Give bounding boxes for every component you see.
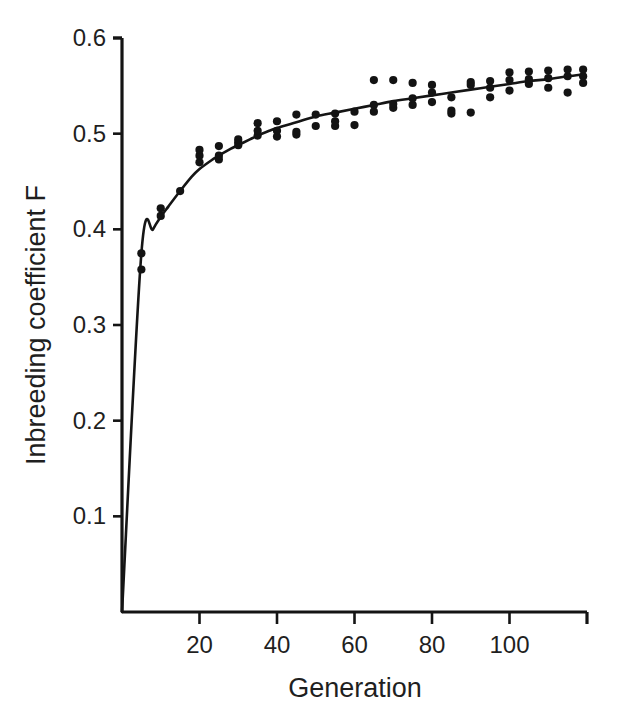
data-point	[447, 107, 455, 115]
inbreeding-coefficient-chart: 0.10.20.30.40.50.6 20406080100 Generatio…	[0, 0, 623, 713]
data-point	[273, 127, 281, 135]
data-point	[467, 109, 475, 117]
y-axis-tick-label: 0.5	[73, 120, 106, 147]
data-point	[157, 204, 165, 212]
data-point	[409, 79, 417, 87]
data-point	[525, 75, 533, 83]
data-point	[525, 67, 533, 75]
data-point	[409, 94, 417, 102]
data-point	[428, 88, 436, 96]
data-point	[234, 135, 242, 143]
data-point	[292, 110, 300, 118]
x-axis-tick-label: 100	[489, 631, 529, 658]
data-point	[195, 146, 203, 154]
data-point	[544, 84, 552, 92]
data-point	[292, 128, 300, 136]
data-point	[579, 65, 587, 73]
data-point	[137, 249, 145, 257]
x-axis-tick-label: 80	[419, 631, 446, 658]
data-point	[486, 93, 494, 101]
y-axis-tick-label: 0.3	[73, 311, 106, 338]
y-axis-tick-label: 0.6	[73, 24, 106, 51]
data-point	[467, 78, 475, 86]
y-axis-tick-label: 0.4	[73, 215, 106, 242]
data-point	[505, 87, 513, 95]
data-point	[428, 81, 436, 89]
x-axis-tick-label: 20	[186, 631, 213, 658]
data-point	[350, 108, 358, 116]
data-point	[350, 121, 358, 129]
data-point	[370, 76, 378, 84]
data-point	[215, 142, 223, 150]
x-axis-title: Generation	[288, 673, 422, 703]
chart-background	[0, 0, 623, 713]
data-point	[157, 212, 165, 220]
x-axis-tick-label: 40	[264, 631, 291, 658]
data-point	[505, 68, 513, 76]
data-point	[331, 117, 339, 125]
y-axis-tick-label: 0.2	[73, 407, 106, 434]
data-point	[137, 265, 145, 273]
data-point	[389, 76, 397, 84]
data-point	[505, 76, 513, 84]
data-point	[176, 187, 184, 195]
data-point	[544, 74, 552, 82]
data-point	[447, 93, 455, 101]
data-point	[215, 152, 223, 160]
data-point	[428, 98, 436, 106]
data-point	[370, 101, 378, 109]
data-point	[564, 88, 572, 96]
data-point	[312, 122, 320, 130]
data-point	[312, 110, 320, 118]
y-axis-tick-label: 0.1	[73, 502, 106, 529]
data-point	[254, 127, 262, 135]
data-point	[331, 109, 339, 117]
y-axis-title: Inbreeding coefficient F	[21, 185, 51, 465]
data-point	[544, 66, 552, 74]
x-axis-tick-label: 60	[341, 631, 368, 658]
data-point	[254, 119, 262, 127]
data-point	[564, 65, 572, 73]
data-point	[486, 77, 494, 85]
data-point	[273, 117, 281, 125]
data-point	[389, 100, 397, 108]
